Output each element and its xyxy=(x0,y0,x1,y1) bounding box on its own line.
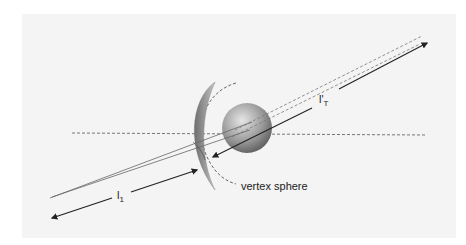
dashed-ray-2 xyxy=(232,44,420,137)
ray-lower-2 xyxy=(52,130,250,197)
eye-sphere xyxy=(222,103,272,153)
optics-diagram xyxy=(0,0,466,245)
label-lT: l'T xyxy=(319,93,328,108)
spectacle-lens xyxy=(194,82,215,190)
ray-lower-1 xyxy=(50,122,252,198)
label-l1: l1 xyxy=(117,189,124,204)
l1-arrow-segment-left xyxy=(52,198,112,218)
label-vertex-sphere: vertex sphere xyxy=(241,180,308,192)
lT-arrow-segment-upper xyxy=(339,43,427,89)
l1-arrow-segment-right xyxy=(131,170,197,192)
label-lT-sub: T xyxy=(324,99,329,108)
dashed-ray-1 xyxy=(235,36,422,130)
label-l1-sub: 1 xyxy=(119,195,123,204)
